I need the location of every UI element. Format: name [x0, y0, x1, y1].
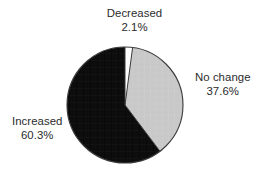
- pie-label-increased-value: 60.3%: [12, 129, 62, 142]
- pie-label-no-change: No change 37.6%: [195, 71, 251, 97]
- pie-label-decreased: Decreased 2.1%: [0, 7, 269, 33]
- pie-label-no-change-value: 37.6%: [195, 85, 251, 98]
- pie-label-increased: Increased 60.3%: [12, 115, 62, 141]
- pie-label-increased-name: Increased: [12, 115, 62, 128]
- pie-chart-svg: [66, 46, 184, 164]
- pie-label-no-change-name: No change: [195, 71, 251, 84]
- pie-label-decreased-name: Decreased: [0, 7, 269, 20]
- pie-label-decreased-value: 2.1%: [0, 21, 269, 34]
- pie-chart-plot-area: [66, 46, 184, 164]
- pie-chart-figure: Decreased 2.1% No change 37.6% Increased…: [0, 0, 269, 179]
